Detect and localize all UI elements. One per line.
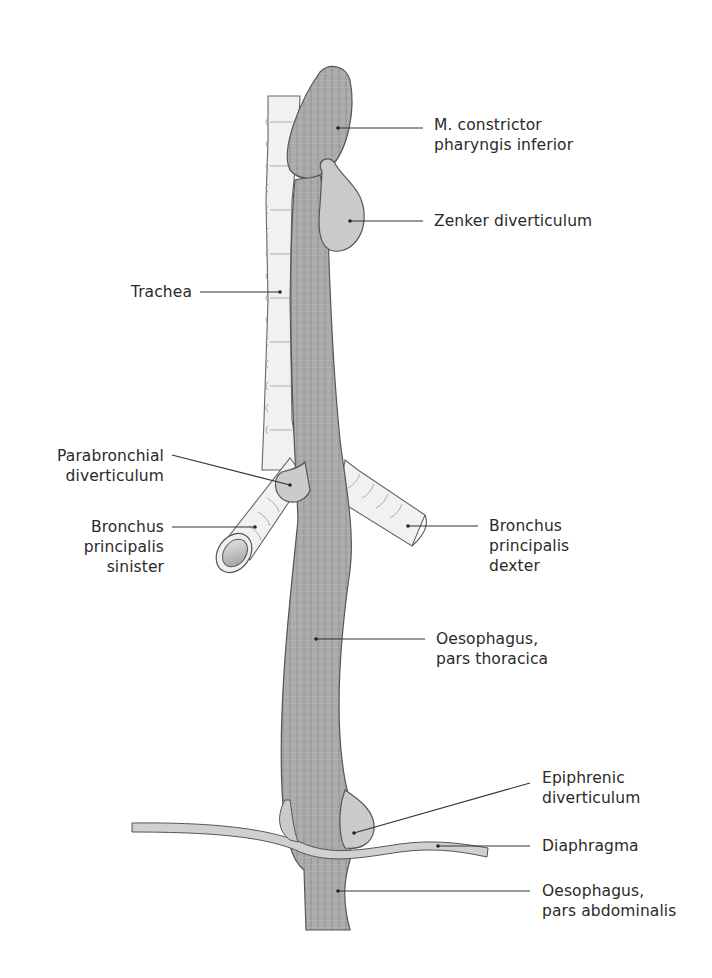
oesophagus-diagram [0, 0, 712, 978]
label-bronchus-dexter: Bronchus principalis dexter [489, 516, 569, 576]
label-constrictor: M. constrictor pharyngis inferior [434, 115, 573, 155]
constrictor-shape [287, 66, 352, 178]
label-zenker-diverticulum: Zenker diverticulum [434, 211, 592, 231]
label-bronchus-sinister: Bronchus principalis sinister [20, 517, 164, 577]
label-oesophagus-abdominalis: Oesophagus, pars abdominalis [542, 881, 676, 921]
label-parabronchial-diverticulum: Parabronchial diverticulum [20, 446, 164, 486]
label-diaphragma: Diaphragma [542, 836, 639, 856]
label-oesophagus-thoracica: Oesophagus, pars thoracica [436, 629, 548, 669]
label-epiphrenic-diverticulum: Epiphrenic diverticulum [542, 768, 640, 808]
label-trachea: Trachea [80, 282, 192, 302]
zenker-diverticulum-shape [319, 159, 364, 251]
